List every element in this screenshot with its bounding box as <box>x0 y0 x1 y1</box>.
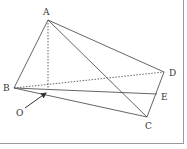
label-d: D <box>169 68 176 78</box>
arrow-to-o <box>25 93 46 108</box>
segment-ab <box>14 20 48 88</box>
pyramid-diagram: A B C D E O <box>0 0 187 149</box>
label-e: E <box>161 92 168 102</box>
label-c: C <box>145 121 152 131</box>
labels-group: A B C D E O <box>3 7 176 131</box>
segments-group <box>14 20 164 117</box>
segment-ad <box>48 20 164 72</box>
segment-ac <box>48 20 147 117</box>
label-a: A <box>42 7 50 17</box>
label-o: O <box>16 108 23 118</box>
segment-bd <box>14 72 164 88</box>
label-b: B <box>3 83 10 93</box>
